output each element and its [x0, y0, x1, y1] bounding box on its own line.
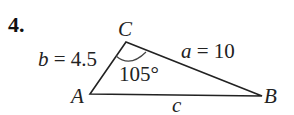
side-b-label: b = 4.5: [38, 47, 97, 71]
angle-c-label: 105°: [119, 62, 159, 86]
triangle-diagram: 4. C A B b = 4.5 a = 10 c 105°: [0, 0, 294, 115]
vertex-a-label: A: [69, 84, 84, 108]
angle-c-arc: [116, 52, 146, 61]
triangle-abc: [90, 42, 262, 96]
problem-number: 4.: [8, 12, 25, 37]
side-c-label: c: [172, 93, 182, 115]
vertex-b-label: B: [264, 84, 277, 108]
side-a-label: a = 10: [181, 39, 235, 63]
vertex-c-label: C: [118, 17, 133, 41]
